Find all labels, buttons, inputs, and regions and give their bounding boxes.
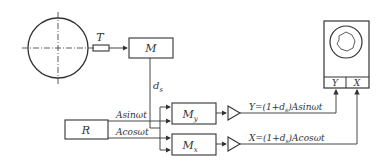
- modulator-m-block: M: [129, 38, 173, 58]
- amplifier-y-icon: [228, 106, 240, 120]
- sensor-label: T: [96, 31, 105, 44]
- measurement-block-diagram: T M ds R Asinωt Acosωt My Mx Y=(1+ds)Asi…: [0, 0, 390, 165]
- reference-r-label: R: [81, 124, 90, 137]
- multiplier-mx-block: Mx: [172, 134, 216, 155]
- oscilloscope-display: Y X: [324, 21, 369, 88]
- ds-label: ds: [153, 80, 163, 94]
- multiplier-my-block: My: [172, 103, 216, 124]
- multiplier-mx-label: Mx: [181, 139, 197, 154]
- reference-r-block: R: [65, 120, 108, 139]
- y-output-label: Y=(1+ds)Asinωt: [249, 102, 323, 113]
- cos-ref-label: Acosωt: [115, 127, 149, 137]
- sin-ref-label: Asinωt: [115, 110, 147, 120]
- workpiece-circle: [22, 12, 95, 86]
- display-y-input-label: Y: [332, 78, 339, 88]
- modulator-m-label: M: [144, 42, 157, 55]
- display-x-input-label: X: [353, 78, 361, 88]
- display-screen: [330, 26, 362, 58]
- multiplier-my-label: My: [181, 108, 198, 123]
- x-output-label: X=(1+ds)Acosωt: [248, 133, 325, 144]
- roundness-trace-icon: [337, 32, 355, 51]
- amplifier-x-icon: [228, 137, 240, 151]
- sensor-probe: T: [93, 31, 109, 51]
